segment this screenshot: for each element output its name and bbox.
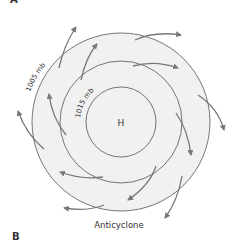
panel-label-b: B	[12, 231, 20, 242]
diagram-caption: Anticyclone	[0, 220, 238, 230]
anticyclone-diagram: H 1015 mb 1005 mb	[0, 0, 238, 246]
high-pressure-label: H	[118, 118, 125, 128]
